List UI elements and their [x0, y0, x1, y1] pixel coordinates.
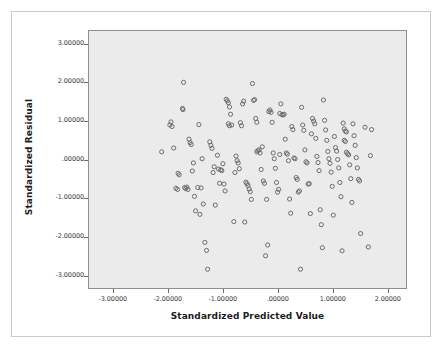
data-point [283, 137, 287, 141]
data-point [271, 151, 275, 155]
data-point [329, 170, 333, 174]
y-tick-label-wrap: -3.00000 [34, 271, 84, 281]
data-point [273, 166, 277, 170]
data-point [192, 194, 196, 198]
y-tick-label-wrap: 2.00000 [34, 77, 84, 87]
data-point [322, 118, 326, 122]
data-point [343, 139, 347, 143]
x-tick-label: -2.00000 [138, 295, 198, 303]
data-point [301, 123, 305, 127]
data-point [279, 102, 283, 106]
data-point [223, 189, 227, 193]
data-point [237, 167, 241, 171]
data-point [359, 231, 363, 235]
data-point [172, 146, 176, 150]
y-tick-mark [84, 198, 88, 199]
data-point [259, 167, 263, 171]
y-tick-label: -1.00000 [38, 193, 84, 201]
data-point [298, 267, 302, 271]
data-point [263, 254, 267, 258]
data-point [325, 138, 329, 142]
data-point [302, 128, 306, 132]
data-point [351, 122, 355, 126]
data-point [348, 163, 352, 167]
data-point [221, 162, 225, 166]
x-tick-mark [333, 289, 334, 293]
data-point [328, 161, 332, 165]
data-point [308, 212, 312, 216]
data-point [287, 197, 291, 201]
data-point [213, 203, 217, 207]
data-point [160, 150, 164, 154]
data-point [198, 212, 202, 216]
data-point [350, 200, 354, 204]
data-point [286, 159, 290, 163]
chart-page: 3.000002.000001.00000.00000-1.00000-2.00… [0, 0, 443, 352]
data-point [332, 134, 336, 138]
data-point [203, 240, 207, 244]
data-point [200, 157, 204, 161]
x-tick-label: -1.00000 [193, 295, 253, 303]
data-point [228, 112, 232, 116]
y-tick-mark [84, 237, 88, 238]
data-point [250, 81, 254, 85]
data-point [339, 195, 343, 199]
data-point [326, 149, 330, 153]
y-tick-mark [84, 44, 88, 45]
y-tick-label: .00000 [38, 155, 84, 163]
data-point [222, 182, 226, 186]
data-point [354, 156, 358, 160]
data-point [321, 98, 325, 102]
data-point [201, 202, 205, 206]
data-point [316, 160, 320, 164]
data-point [193, 209, 197, 213]
data-point [190, 169, 194, 173]
data-point [355, 166, 359, 170]
data-point [197, 123, 201, 127]
y-tick-label-wrap: .00000 [34, 155, 84, 165]
data-point [204, 248, 208, 252]
data-point [340, 249, 344, 253]
data-point [266, 243, 270, 247]
data-point [232, 220, 236, 224]
x-tick-mark [388, 289, 389, 293]
data-points-layer [89, 31, 406, 288]
data-point [352, 134, 356, 138]
data-point [289, 211, 293, 215]
data-point [324, 128, 328, 132]
data-point [363, 125, 367, 129]
data-point [331, 213, 335, 217]
data-point [218, 181, 222, 185]
data-point [243, 220, 247, 224]
data-point [318, 208, 322, 212]
data-point [336, 157, 340, 161]
y-tick-label: 1.00000 [38, 116, 84, 124]
data-point [338, 180, 342, 184]
data-point [353, 143, 357, 147]
x-tick-label: -3.00000 [83, 295, 143, 303]
data-point [215, 153, 219, 157]
x-tick-mark [113, 289, 114, 293]
y-axis-title: Standardized Residual [24, 62, 34, 252]
data-point [260, 145, 264, 149]
data-point [297, 189, 301, 193]
y-tick-label: -2.00000 [38, 232, 84, 240]
data-point [211, 170, 215, 174]
plot-area [88, 30, 407, 289]
y-tick-label: -3.00000 [38, 271, 84, 279]
data-point [314, 136, 318, 140]
data-point [181, 80, 185, 84]
x-tick-label: .00000 [248, 295, 308, 303]
y-tick-label-wrap: -2.00000 [34, 232, 84, 242]
data-point [249, 197, 253, 201]
data-point [206, 267, 210, 271]
data-point [227, 105, 231, 109]
scatter-chart: 3.000002.000001.00000.00000-1.00000-2.00… [0, 0, 443, 352]
y-tick-label-wrap: -1.00000 [34, 193, 84, 203]
data-point [368, 154, 372, 158]
y-tick-label-wrap: 1.00000 [34, 116, 84, 126]
data-point [315, 154, 319, 158]
data-point [278, 152, 282, 156]
data-point [303, 148, 307, 152]
data-point [330, 184, 334, 188]
